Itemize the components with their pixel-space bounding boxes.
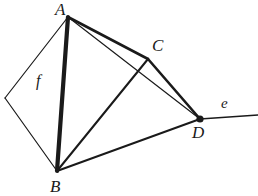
geometry-figure: A B C D f e: [0, 0, 258, 196]
segment-d-e: [200, 115, 258, 119]
vertex-dot-d: [196, 115, 203, 122]
vertex-label-a: A: [55, 1, 65, 18]
vertex-label-b: B: [50, 178, 60, 195]
segment-a-c: [68, 17, 148, 59]
figure-canvas: [0, 0, 258, 196]
vertex-label-c: C: [152, 37, 163, 54]
segment-a-b: [57, 17, 68, 171]
segment-a-d: [68, 17, 200, 119]
line-label-e: e: [221, 96, 228, 111]
segment-c-d: [148, 59, 200, 119]
segment-left-b: [5, 98, 57, 171]
vertex-label-d: D: [192, 124, 204, 141]
region-label-f: f: [36, 73, 40, 89]
